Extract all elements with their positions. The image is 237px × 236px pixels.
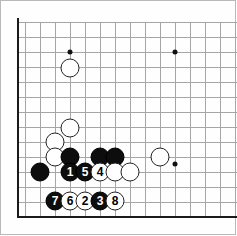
star-point-lower-right <box>173 162 178 167</box>
move-number-7: 7 <box>52 195 59 207</box>
stone-white-b[interactable] <box>61 119 80 138</box>
grid-line-horizontal-2 <box>17 52 237 53</box>
star-point-upper-right <box>173 50 178 55</box>
stone-white-e[interactable] <box>151 148 170 167</box>
grid-line-vertical-8 <box>145 22 146 216</box>
grid-line-horizontal-3 <box>17 67 237 68</box>
go-diagram-figure: 15476238 <box>0 0 237 236</box>
grid-line-vertical-0 <box>25 22 26 216</box>
go-board[interactable]: 15476238 <box>0 0 237 236</box>
grid-line-vertical-5 <box>100 22 101 216</box>
move-number-6: 6 <box>67 195 74 207</box>
grid-line-horizontal-11 <box>17 187 237 188</box>
move-number-4: 4 <box>97 166 104 178</box>
grid-line-vertical-13 <box>220 22 221 216</box>
grid-line-vertical-2 <box>55 22 56 216</box>
grid-line-vertical-7 <box>130 22 131 216</box>
grid-line-vertical-11 <box>190 22 191 216</box>
stone-white-g[interactable] <box>121 163 140 182</box>
grid-line-vertical-1 <box>40 22 41 216</box>
move-number-2: 2 <box>82 195 89 207</box>
star-point-upper-left <box>68 50 73 55</box>
grid-line-vertical-6 <box>115 22 116 216</box>
grid-line-vertical-4 <box>85 22 86 216</box>
move-number-5: 5 <box>82 166 89 178</box>
grid-line-vertical-9 <box>160 22 161 216</box>
grid-line-horizontal-6 <box>17 112 237 113</box>
grid-line-vertical-14 <box>235 22 236 216</box>
stone-white-a[interactable] <box>61 59 80 78</box>
grid-line-horizontal-0 <box>17 22 237 23</box>
stone-black-d[interactable] <box>31 163 50 182</box>
grid-line-horizontal-5 <box>17 97 237 98</box>
stone-move-8[interactable]: 8 <box>106 192 125 211</box>
grid-line-horizontal-4 <box>17 82 237 83</box>
move-number-8: 8 <box>112 195 119 207</box>
move-number-1: 1 <box>67 166 74 178</box>
grid-line-horizontal-1 <box>17 37 237 38</box>
board-edge-left <box>17 18 19 218</box>
grid-line-horizontal-7 <box>17 127 237 128</box>
board-edge-bottom <box>17 216 237 218</box>
move-number-3: 3 <box>97 195 104 207</box>
grid-line-vertical-12 <box>205 22 206 216</box>
